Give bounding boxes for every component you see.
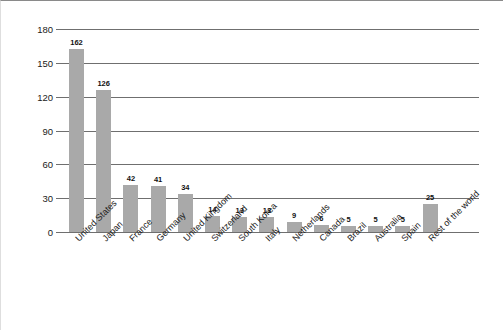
y-axis-tick bbox=[56, 164, 63, 165]
bar[interactable]: 42 bbox=[123, 185, 138, 232]
chart-figure: Number of corporations 03060901201501801… bbox=[0, 0, 503, 330]
y-axis-tick-label: 90 bbox=[42, 125, 53, 136]
y-axis-tick bbox=[56, 131, 63, 132]
bar[interactable]: 162 bbox=[69, 49, 84, 232]
y-axis-tick bbox=[56, 232, 63, 233]
gridline bbox=[63, 131, 479, 132]
y-axis-tick bbox=[56, 29, 63, 30]
gridline bbox=[63, 164, 479, 165]
bar-value-label: 34 bbox=[181, 183, 189, 192]
y-axis-tick bbox=[56, 97, 63, 98]
bar-value-label: 9 bbox=[292, 211, 296, 220]
y-axis-tick bbox=[56, 63, 63, 64]
bar-value-label: 126 bbox=[97, 79, 110, 88]
bar[interactable]: 41 bbox=[151, 186, 166, 232]
gridline bbox=[63, 63, 479, 64]
bar-value-label: 5 bbox=[374, 215, 378, 224]
y-axis-tick-label: 120 bbox=[37, 91, 53, 102]
bar-value-label: 25 bbox=[426, 193, 434, 202]
y-axis-tick-label: 30 bbox=[42, 193, 53, 204]
bar-value-label: 5 bbox=[346, 215, 350, 224]
bar-value-label: 42 bbox=[127, 174, 135, 183]
y-axis-tick-label: 180 bbox=[37, 24, 53, 35]
bar-value-label: 41 bbox=[154, 175, 162, 184]
gridline bbox=[63, 29, 479, 30]
y-axis-tick bbox=[56, 198, 63, 199]
y-axis-tick-label: 0 bbox=[48, 227, 53, 238]
y-axis-tick-label: 60 bbox=[42, 159, 53, 170]
y-axis-tick-label: 150 bbox=[37, 57, 53, 68]
bar-value-label: 162 bbox=[70, 38, 83, 47]
gridline bbox=[63, 97, 479, 98]
